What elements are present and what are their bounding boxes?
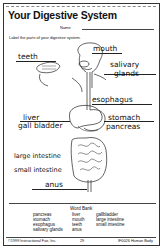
label-glands: glands — [114, 69, 139, 78]
label-gall-bladder: gall bladder — [18, 121, 63, 130]
label-small-intestine: small intestine — [14, 166, 62, 174]
footer-divider — [6, 237, 156, 238]
label-pancreas: pancreas — [106, 122, 140, 131]
label-stomach: stomach — [108, 113, 140, 122]
footer-page-number: 29 — [80, 239, 84, 243]
word-bank-item: small intestine — [96, 222, 125, 227]
label-salivary: salivary — [110, 60, 139, 69]
label-anus: anus — [45, 180, 63, 189]
label-teeth: teeth — [18, 52, 38, 61]
esophagus-leader-line — [92, 104, 152, 105]
word-bank-item: anus — [72, 227, 82, 232]
footer-copyright: ©1999 Instructional Fair, Inc. — [8, 239, 56, 243]
label-large-intestine: large intestine — [14, 152, 61, 160]
word-bank-item: salivary glands — [33, 227, 63, 232]
footer-product: IF0026 Human Body — [118, 239, 153, 243]
word-bank-divider — [9, 203, 156, 204]
teeth-leader-line — [16, 61, 56, 62]
label-mouth: mouth — [93, 44, 117, 53]
anus-leader-line — [32, 189, 87, 190]
label-esophagus: esophagus — [92, 95, 133, 104]
mouth-leader-line — [92, 53, 122, 54]
word-bank-title: Word Bank — [70, 206, 92, 211]
